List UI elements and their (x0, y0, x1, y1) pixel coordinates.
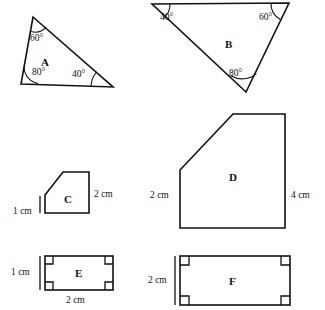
right-angle-mark-e-tr (105, 256, 113, 264)
shapes-canvas (0, 0, 325, 310)
angle-label-a-80: 80° (32, 68, 45, 78)
angle-label-b-60: 60° (259, 13, 272, 23)
dimension-label-f-left: 2 cm (148, 276, 167, 286)
dimension-label-e-bottom: 2 cm (66, 296, 85, 306)
dimension-label-d-left: 2 cm (150, 191, 169, 201)
figure-label-e: E (75, 268, 82, 279)
angle-label-a-60: 60° (30, 34, 43, 44)
angle-label-a-40: 40° (72, 70, 85, 80)
figure-label-f: F (229, 276, 236, 287)
geometry-worksheet: A B C D E F 60° 80° 40° 40° 60° 80° 1 cm… (0, 0, 325, 310)
right-angle-mark-e-bl (45, 282, 53, 290)
right-angle-mark-f-br (281, 296, 290, 305)
angle-label-b-80: 80° (229, 69, 242, 79)
dimension-label-c-left: 1 cm (13, 207, 32, 217)
right-angle-mark-e-tl (45, 256, 53, 264)
angle-arc-a-60 (31, 27, 46, 32)
dimension-label-c-right: 2 cm (94, 190, 113, 200)
angle-arc-a-40 (91, 73, 96, 87)
right-angle-mark-e-br (105, 282, 113, 290)
dimension-label-d-right: 4 cm (291, 191, 310, 201)
dimension-label-e-left: 1 cm (11, 268, 30, 278)
figure-label-d: D (229, 172, 237, 183)
angle-label-b-40: 40° (160, 13, 173, 23)
right-angle-mark-f-tr (281, 256, 290, 265)
right-angle-mark-f-tl (180, 256, 189, 265)
right-angle-mark-f-bl (180, 296, 189, 305)
figure-label-c: C (64, 194, 72, 205)
figure-label-b: B (225, 39, 232, 50)
angle-arc-b-60 (271, 3, 280, 19)
